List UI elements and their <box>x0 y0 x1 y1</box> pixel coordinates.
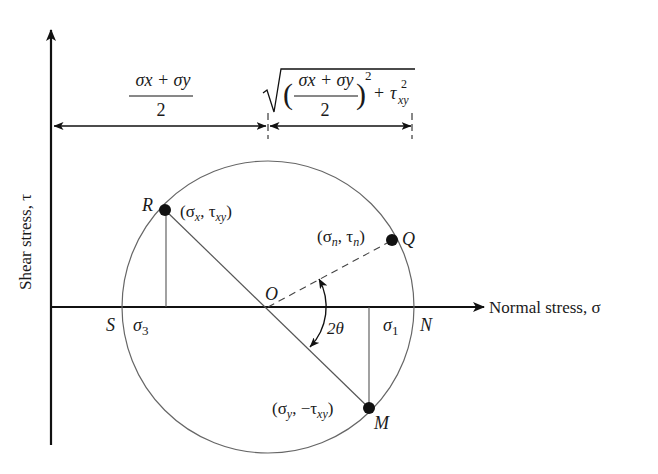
sigma3-label: σ3 <box>133 315 148 338</box>
svg-text:2: 2 <box>365 68 372 83</box>
svg-text:σx + σy: σx + σy <box>299 70 354 90</box>
svg-text:+: + <box>374 83 384 103</box>
point-q-coords: (σn, τn) <box>317 227 365 249</box>
point-m-coords: (σy, −τxy) <box>272 399 333 421</box>
svg-text:2: 2 <box>321 100 330 120</box>
point-q-label: Q <box>402 229 415 249</box>
svg-text:τ: τ <box>390 83 397 103</box>
point-q <box>386 234 398 246</box>
svg-text:(σx, τxy): (σx, τxy) <box>180 202 232 224</box>
center-distance-label: σx + σy 2 <box>129 70 193 120</box>
point-r-coords: (σx, τxy) <box>180 202 232 224</box>
mohr-circle-diagram: Shear stress, τ Normal stress, σ σx + σy… <box>0 0 658 474</box>
svg-text:σ3: σ3 <box>133 315 148 338</box>
svg-text:2: 2 <box>157 100 166 120</box>
point-r <box>159 204 171 216</box>
svg-text:2: 2 <box>401 77 407 91</box>
point-s-label: S <box>106 315 115 335</box>
radius-line-o-q <box>268 241 391 307</box>
sigma1-label: σ1 <box>383 315 398 338</box>
svg-text:(σn, τn): (σn, τn) <box>317 227 365 249</box>
svg-text:(σy, −τxy): (σy, −τxy) <box>272 399 333 421</box>
point-r-label: R <box>141 195 153 215</box>
point-n-label: N <box>419 315 433 335</box>
svg-text:xy: xy <box>397 93 409 107</box>
angle-arc-2theta <box>310 279 326 347</box>
normal-stress-axis-label: Normal stress, σ <box>489 298 601 317</box>
radius-formula-label: ( σx + σy 2 ) 2 + τ xy 2 <box>263 68 415 120</box>
svg-text:σx + σy: σx + σy <box>136 70 191 90</box>
angle-label: 2θ <box>327 319 344 338</box>
center-o-label: O <box>265 284 278 304</box>
svg-text:σ1: σ1 <box>383 315 398 338</box>
point-m-label: M <box>373 413 390 433</box>
shear-stress-axis-label: Shear stress, τ <box>16 194 35 290</box>
svg-text:(: ( <box>283 77 293 111</box>
